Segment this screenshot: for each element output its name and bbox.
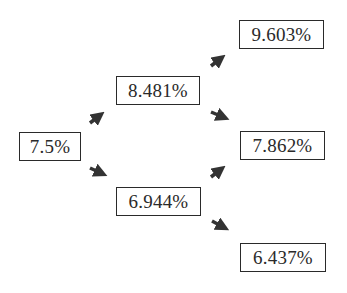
node-uu: 9.603% <box>239 20 324 49</box>
node-up-label: 8.481% <box>128 80 188 102</box>
arrow-root-to-down <box>90 168 101 173</box>
node-dd-label: 6.437% <box>253 247 313 269</box>
node-uu-label: 9.603% <box>252 24 312 46</box>
arrow-down-to-dd <box>212 221 223 227</box>
arrow-up-to-uu <box>211 59 220 66</box>
arrow-down-to-ud <box>211 170 220 177</box>
arrow-up-to-ud <box>211 112 223 117</box>
node-root-label: 7.5% <box>30 136 70 158</box>
node-down-label: 6.944% <box>129 191 189 213</box>
node-ud-label: 7.862% <box>253 135 313 157</box>
node-dd: 6.437% <box>240 243 326 272</box>
node-root: 7.5% <box>19 132 81 161</box>
node-up: 8.481% <box>116 76 200 105</box>
arrow-root-to-up <box>90 116 99 123</box>
node-down: 6.944% <box>116 187 201 216</box>
node-ud: 7.862% <box>240 131 325 160</box>
